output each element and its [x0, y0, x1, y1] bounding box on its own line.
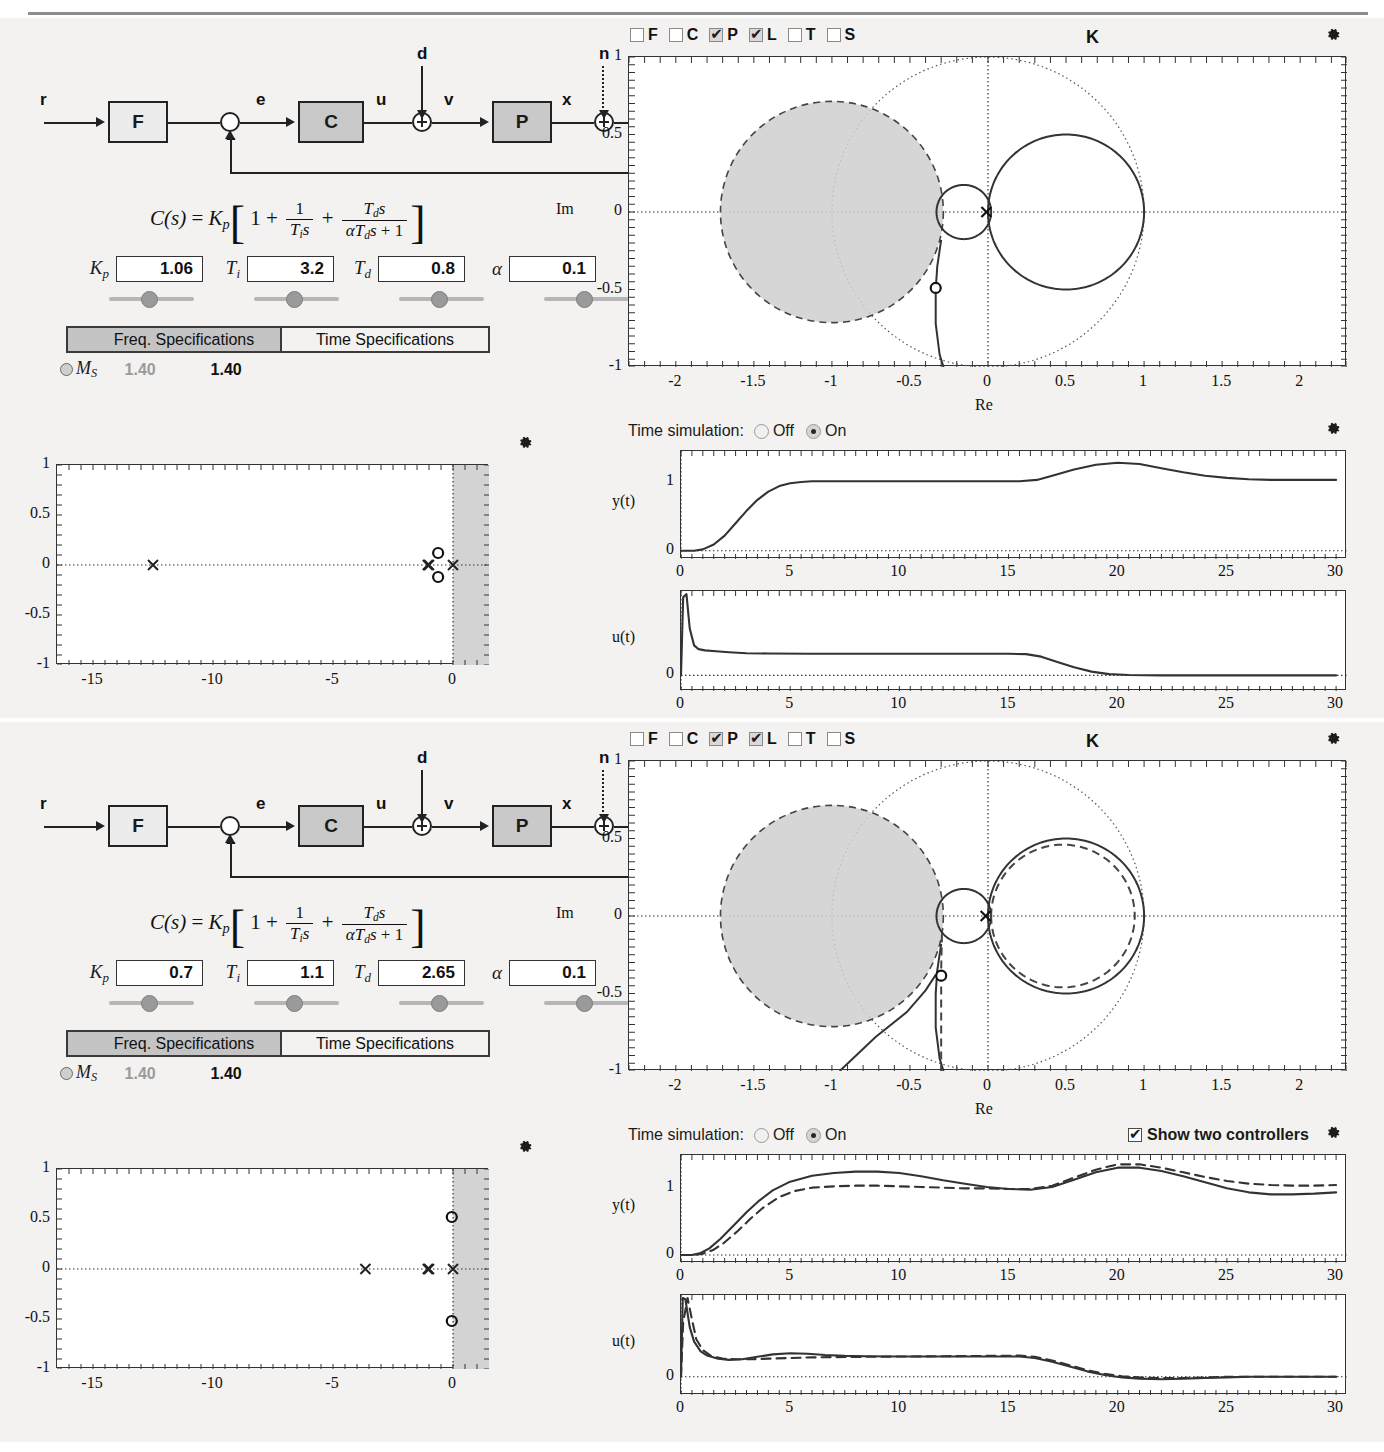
ms-radio[interactable] [60, 1067, 73, 1080]
slider-thumb[interactable] [141, 995, 158, 1012]
parameter-slider-Ti[interactable] [231, 288, 362, 310]
show-two-controllers-toggle[interactable]: Show two controllers [1128, 1126, 1309, 1144]
checkbox-S[interactable] [827, 732, 841, 746]
parameter-input-Td[interactable]: 2.65 [378, 960, 465, 986]
checkbox-C[interactable] [669, 28, 683, 42]
checkbox-S[interactable] [827, 28, 841, 42]
curve-toggle-P[interactable]: P [709, 730, 738, 748]
parameter-slider-Kp[interactable] [86, 992, 217, 1014]
parameter-input-Kp[interactable]: 1.06 [116, 256, 203, 282]
controller-panel-top: rF−eCudvPxnyC(s) = Kp[ 1 + 1Tis + TdsαTd… [0, 18, 1384, 718]
panel-left-column: rF−eCudvPxnyC(s) = Kp[ 1 + 1Tis + TdsαTd… [0, 722, 600, 1442]
y-plot[interactable] [680, 1154, 1346, 1262]
y-plot-ytick: 0 [650, 540, 674, 558]
pole-zero-plot[interactable] [56, 1168, 488, 1368]
checkbox-P[interactable] [709, 28, 723, 42]
curve-toggle-P[interactable]: P [709, 26, 738, 44]
nyquist-xtick: -2 [653, 1076, 697, 1094]
ms-label: MS [76, 1062, 97, 1085]
spec-button-freq[interactable]: Freq. Specifications [66, 326, 302, 353]
curve-toggle-label: C [687, 26, 699, 44]
radio-off[interactable] [754, 1128, 769, 1143]
checkbox-L[interactable] [749, 28, 763, 42]
y-plot-xtick: 15 [986, 1266, 1030, 1284]
gear-icon[interactable] [516, 434, 534, 452]
y-plot-ytick: 1 [650, 471, 674, 489]
time-simulation-option-on[interactable]: On [806, 422, 846, 440]
curve-toggle-T[interactable]: T [788, 730, 816, 748]
curve-toggle-C[interactable]: C [669, 26, 699, 44]
block-P[interactable]: P [492, 805, 552, 847]
parameter-slider-Ti[interactable] [231, 992, 362, 1014]
nyquist-plot[interactable] [628, 56, 1346, 366]
parameter-slider-Td[interactable] [376, 992, 507, 1014]
gear-icon[interactable] [1324, 420, 1342, 438]
slider-thumb[interactable] [286, 291, 303, 308]
checkbox-T[interactable] [788, 732, 802, 746]
signal-line [432, 122, 480, 124]
parameter-slider-Kp[interactable] [86, 288, 217, 310]
curve-toggle-F[interactable]: F [630, 26, 658, 44]
block-F[interactable]: F [108, 805, 168, 847]
slider-thumb[interactable] [431, 291, 448, 308]
spec-button-time[interactable]: Time Specifications [280, 1030, 490, 1057]
slider-thumb[interactable] [431, 995, 448, 1012]
checkbox-show-two-controllers[interactable] [1128, 1128, 1142, 1142]
pole-zero-plot[interactable] [56, 464, 488, 664]
checkbox-T[interactable] [788, 28, 802, 42]
parameter-Td: Td2.65 [348, 960, 465, 986]
block-C[interactable]: C [298, 101, 364, 143]
checkbox-C[interactable] [669, 732, 683, 746]
curve-toggle-T[interactable]: T [788, 26, 816, 44]
curve-toggle-label: S [845, 730, 856, 748]
sum-junction-error [220, 112, 240, 132]
signal-line [230, 838, 232, 878]
radio-label: On [825, 422, 846, 440]
radio-on[interactable] [806, 424, 821, 439]
u-plot-xtick: 25 [1204, 1398, 1248, 1416]
parameter-input-Td[interactable]: 0.8 [378, 256, 465, 282]
y-plot[interactable] [680, 450, 1346, 558]
gear-icon[interactable] [1324, 730, 1342, 748]
parameter-input-Kp[interactable]: 0.7 [116, 960, 203, 986]
signal-label-v: v [444, 794, 453, 814]
block-F[interactable]: F [108, 101, 168, 143]
signal-line [168, 122, 220, 124]
checkbox-F[interactable] [630, 28, 644, 42]
slider-thumb[interactable] [286, 995, 303, 1012]
u-plot[interactable] [680, 590, 1346, 690]
spec-button-time[interactable]: Time Specifications [280, 326, 490, 353]
gear-icon[interactable] [516, 1138, 534, 1156]
gear-icon[interactable] [1324, 1124, 1342, 1142]
parameter-slider-Td[interactable] [376, 288, 507, 310]
curve-toggle-L[interactable]: L [749, 730, 777, 748]
u-plot[interactable] [680, 1294, 1346, 1394]
parameter-input-Ti[interactable]: 3.2 [247, 256, 334, 282]
curve-toggle-C[interactable]: C [669, 730, 699, 748]
gear-icon[interactable] [1324, 26, 1342, 44]
curve-toggle-S[interactable]: S [827, 730, 856, 748]
checkbox-P[interactable] [709, 732, 723, 746]
curve-toggle-L[interactable]: L [749, 26, 777, 44]
radio-on[interactable] [806, 1128, 821, 1143]
time-simulation-option-off[interactable]: Off [754, 422, 794, 440]
block-P[interactable]: P [492, 101, 552, 143]
radio-off[interactable] [754, 424, 769, 439]
parameter-input-Ti[interactable]: 1.1 [247, 960, 334, 986]
nyquist-ytick: 0.5 [580, 828, 622, 846]
checkbox-F[interactable] [630, 732, 644, 746]
ms-radio[interactable] [60, 363, 73, 376]
checkbox-L[interactable] [749, 732, 763, 746]
nyquist-plot[interactable] [628, 760, 1346, 1070]
curve-toggle-S[interactable]: S [827, 26, 856, 44]
curve-toggle-F[interactable]: F [630, 730, 658, 748]
y-plot-ylabel: y(t) [612, 1196, 635, 1214]
time-simulation-option-off[interactable]: Off [754, 1126, 794, 1144]
u-plot-ylabel: u(t) [612, 628, 635, 646]
slider-row [86, 288, 666, 310]
signal-line [432, 826, 480, 828]
spec-button-freq[interactable]: Freq. Specifications [66, 1030, 302, 1057]
time-simulation-option-on[interactable]: On [806, 1126, 846, 1144]
block-C[interactable]: C [298, 805, 364, 847]
slider-thumb[interactable] [141, 291, 158, 308]
